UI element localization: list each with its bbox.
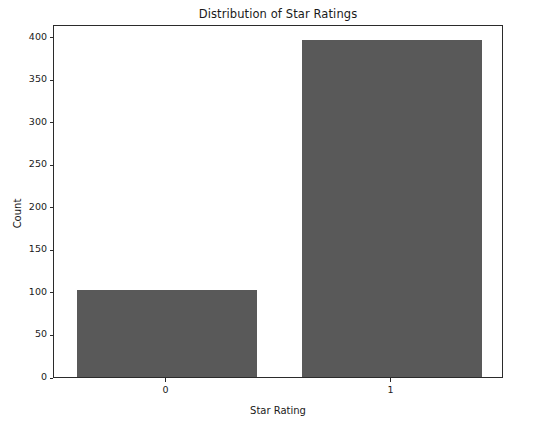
bar [302,40,482,377]
y-tick-label: 100 [29,286,47,297]
x-tick-mark [390,378,391,382]
x-tick-label: 1 [371,384,411,395]
plot-area [53,25,503,378]
bars-layer [54,26,502,377]
y-tick-label: 350 [29,73,47,84]
x-tick-label: 0 [146,384,186,395]
y-tick-label: 50 [35,328,47,339]
y-tick-label: 250 [29,158,47,169]
x-axis-label: Star Rating [53,405,503,416]
y-tick-label: 400 [29,31,47,42]
chart-title: Distribution of Star Ratings [53,7,503,21]
y-axis-label: Count [12,184,23,244]
y-tick-label: 150 [29,243,47,254]
bar [77,290,257,377]
x-tick-mark [165,378,166,382]
x-axis: Star Rating 01 [53,378,503,433]
y-tick-label: 200 [29,201,47,212]
y-tick-label: 300 [29,116,47,127]
chart-figure: Distribution of Star Ratings Count 05010… [0,0,533,433]
y-tick-label: 0 [41,371,47,382]
y-axis: Count 050100150200250300350400 [0,25,53,378]
